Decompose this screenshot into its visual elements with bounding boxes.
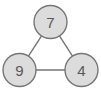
- graph-diagram: 794: [0, 0, 101, 89]
- graph-node-bottom-left: 9: [3, 54, 36, 87]
- graph-node-top: 7: [34, 6, 67, 39]
- node-circle-top: [34, 6, 67, 39]
- node-circle-bottom-left: [3, 54, 36, 87]
- graph-node-bottom-right: 4: [65, 54, 98, 87]
- node-circle-bottom-right: [65, 54, 98, 87]
- node-layer: 794: [3, 6, 98, 87]
- graph-canvas: 794: [0, 0, 101, 89]
- graph-edge-top-bottom-left: [28, 36, 41, 56]
- graph-edge-top-bottom-right: [59, 36, 72, 56]
